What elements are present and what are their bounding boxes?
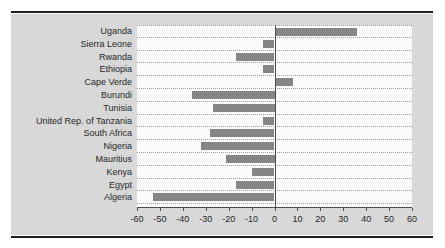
x-tick xyxy=(183,208,184,211)
bar xyxy=(263,117,274,125)
x-tick-label: 10 xyxy=(292,214,302,224)
chart-row: Mauritius xyxy=(11,153,412,166)
bar xyxy=(236,53,275,61)
chart-row: Tunisia xyxy=(11,102,412,115)
bar xyxy=(263,40,274,48)
category-label: Sierra Leone xyxy=(11,38,137,51)
category-label: United Rep. of Tanzania xyxy=(11,115,137,128)
chart-row: Sierra Leone xyxy=(11,38,412,51)
x-tick-label: -20 xyxy=(222,214,235,224)
figure: UgandaSierra LeoneRwandaEthiopiaCape Ver… xyxy=(0,0,445,248)
chart-row: Burundi xyxy=(11,89,412,102)
category-label: Nigeria xyxy=(11,140,137,153)
zero-line xyxy=(275,25,276,207)
bar-chart: UgandaSierra LeoneRwandaEthiopiaCape Ver… xyxy=(11,25,412,229)
category-label: Kenya xyxy=(11,166,137,179)
bar xyxy=(275,28,358,36)
chart-row: South Africa xyxy=(11,127,412,140)
x-tick xyxy=(297,208,298,211)
category-label: Algeria xyxy=(11,191,137,204)
chart-rows: UgandaSierra LeoneRwandaEthiopiaCape Ver… xyxy=(11,25,412,204)
x-tick-label: -30 xyxy=(199,214,212,224)
x-tick-label: -10 xyxy=(245,214,258,224)
top-rule xyxy=(11,11,433,13)
x-axis: -60-50-40-30-20-100102030405060 xyxy=(137,207,412,229)
category-label: Burundi xyxy=(11,89,137,102)
x-tick xyxy=(320,208,321,211)
category-label: Egypt xyxy=(11,179,137,192)
chart-row: Cape Verde xyxy=(11,76,412,89)
x-tick-label: -40 xyxy=(176,214,189,224)
category-label: Cape Verde xyxy=(11,76,137,89)
bar xyxy=(201,142,274,150)
x-tick-label: 0 xyxy=(272,214,277,224)
x-tick xyxy=(160,208,161,211)
category-label: Ethiopia xyxy=(11,63,137,76)
bottom-rule xyxy=(11,236,433,238)
x-tick-label: 40 xyxy=(361,214,371,224)
x-tick-label: 60 xyxy=(407,214,417,224)
category-label: South Africa xyxy=(11,127,137,140)
bar xyxy=(226,155,274,163)
chart-row: United Rep. of Tanzania xyxy=(11,115,412,128)
chart-row: Uganda xyxy=(11,25,412,38)
x-tick-label: -60 xyxy=(130,214,143,224)
x-tick-label: 30 xyxy=(338,214,348,224)
category-label: Mauritius xyxy=(11,153,137,166)
x-tick xyxy=(275,208,276,211)
bar xyxy=(153,193,274,201)
bar xyxy=(252,168,275,176)
bar xyxy=(263,65,274,73)
category-label: Rwanda xyxy=(11,51,137,64)
chart-row: Egypt xyxy=(11,179,412,192)
category-label: Tunisia xyxy=(11,102,137,115)
bar xyxy=(213,104,275,112)
x-tick xyxy=(206,208,207,211)
x-tick xyxy=(343,208,344,211)
x-tick xyxy=(389,208,390,211)
x-tick xyxy=(412,208,413,211)
chart-row: Rwanda xyxy=(11,51,412,64)
chart-row: Nigeria xyxy=(11,140,412,153)
chart-row: Algeria xyxy=(11,191,412,204)
x-tick-label: 50 xyxy=(384,214,394,224)
bar xyxy=(210,129,274,137)
x-tick xyxy=(229,208,230,211)
chart-row: Ethiopia xyxy=(11,63,412,76)
category-label: Uganda xyxy=(11,25,137,38)
x-tick xyxy=(366,208,367,211)
x-tick-label: -50 xyxy=(153,214,166,224)
bar xyxy=(192,91,275,99)
x-tick xyxy=(137,208,138,211)
chart-row: Kenya xyxy=(11,166,412,179)
bar xyxy=(236,181,275,189)
x-tick-label: 20 xyxy=(315,214,325,224)
bar xyxy=(275,78,293,86)
chart-panel: UgandaSierra LeoneRwandaEthiopiaCape Ver… xyxy=(11,14,433,235)
x-tick xyxy=(252,208,253,211)
